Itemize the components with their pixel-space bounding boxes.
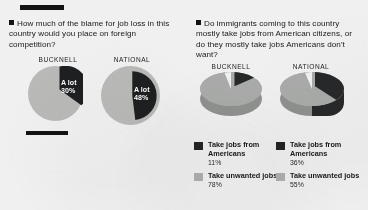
pie-top-face [280, 72, 344, 106]
left-panel-headline: How much of the blame for job loss in th… [9, 19, 181, 50]
legend-label: Take jobs from Americans [290, 141, 364, 158]
pie-top-face [200, 72, 262, 106]
pie-top-slices [200, 72, 262, 106]
right-pie-national [280, 72, 344, 120]
slice-value-text: 30% [61, 87, 77, 95]
left-pie-bucknell-annotation: A lot 30% [61, 79, 77, 95]
legend-item: Take unwanted jobs 78% [194, 172, 278, 190]
legend-item: Take jobs from Americans 11% [194, 141, 278, 167]
legend-swatch-gray-icon [194, 173, 203, 181]
square-bullet-icon [196, 20, 201, 25]
legend-value: 36% [290, 159, 364, 167]
left-column-label-national: NATIONAL [101, 56, 163, 63]
legend-label: Take jobs from Americans [208, 141, 278, 158]
legend-value: 11% [208, 159, 278, 167]
pie-wedge-a-lot [101, 66, 160, 125]
pie-top-slices [280, 72, 344, 106]
left-pie-bucknell: A lot 30% [28, 66, 83, 121]
legend-label: Take unwanted jobs [208, 172, 278, 181]
right-infographic-panel: Do immigrants coming to this country mos… [188, 0, 368, 210]
slice-value-text: 48% [134, 94, 150, 102]
legend-swatch-dark-icon [194, 142, 203, 150]
left-pie-national: A lot 48% [101, 66, 160, 125]
left-pie-national-annotation: A lot 48% [134, 86, 150, 102]
legend-value: 78% [208, 181, 278, 189]
legend-swatch-dark-icon [276, 142, 285, 150]
legend-column-bucknell: Take jobs from Americans 11% Take unwant… [194, 141, 278, 193]
legend-label: Take unwanted jobs [290, 172, 364, 181]
left-infographic-panel: How much of the blame for job loss in th… [0, 0, 188, 210]
legend-column-national: Take jobs from Americans 36% Take unwant… [276, 141, 364, 193]
top-divider-rule [20, 5, 64, 10]
slice-label-text: A lot [134, 86, 150, 94]
slice-label-text: A lot [61, 79, 77, 87]
left-headline-text: How much of the blame for job loss in th… [9, 19, 169, 49]
left-column-label-bucknell: BUCKNELL [28, 56, 88, 63]
right-panel-headline: Do immigrants coming to this country mos… [196, 19, 358, 61]
legend-item: Take unwanted jobs 55% [276, 172, 364, 190]
right-column-label-national: NATIONAL [280, 63, 342, 70]
bottom-divider-rule [26, 131, 68, 135]
right-column-label-bucknell: BUCKNELL [200, 63, 262, 70]
legend-value: 55% [290, 181, 364, 189]
right-headline-text: Do immigrants coming to this country mos… [196, 19, 352, 59]
right-pie-bucknell [200, 72, 262, 120]
square-bullet-icon [9, 20, 14, 25]
legend-swatch-gray-icon [276, 173, 285, 181]
legend-item: Take jobs from Americans 36% [276, 141, 364, 167]
